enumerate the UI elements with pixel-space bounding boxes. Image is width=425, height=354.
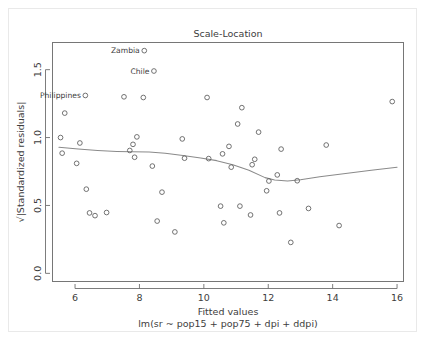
data-point <box>337 223 342 228</box>
point-label: Philippines <box>40 91 81 100</box>
data-point <box>238 204 243 209</box>
data-point <box>264 188 269 193</box>
plot-panel-box <box>53 43 404 282</box>
data-point <box>135 135 140 140</box>
data-point <box>180 137 185 142</box>
plot-canvas: 6810121416 0.00.51.01.5 ZambiaChilePhili… <box>0 0 425 354</box>
chart-title: Scale-Location <box>193 28 262 39</box>
point-annotations: ZambiaChilePhilippines <box>40 46 150 100</box>
scatter-points <box>58 48 394 244</box>
data-point <box>142 48 147 53</box>
data-point <box>141 95 146 100</box>
data-point <box>62 111 67 116</box>
x-axis-subtitle: lm(sr ~ pop15 + pop75 + dpi + ddpi) <box>138 318 318 329</box>
y-tick-label: 1.5 <box>33 62 44 77</box>
data-point <box>295 178 300 183</box>
data-point <box>150 164 155 169</box>
data-point <box>227 144 232 149</box>
loess-smoother-line <box>59 147 397 181</box>
data-point <box>93 213 98 218</box>
scale-location-figure: 6810121416 0.00.51.01.5 ZambiaChilePhili… <box>0 0 425 354</box>
data-point <box>250 162 255 167</box>
data-point <box>58 135 63 140</box>
data-point <box>152 69 157 74</box>
data-point <box>78 141 83 146</box>
data-point <box>235 122 240 127</box>
data-point <box>390 99 395 104</box>
data-point <box>131 142 136 147</box>
data-point <box>267 179 272 184</box>
data-point <box>205 95 210 100</box>
data-point <box>252 157 257 162</box>
x-axis-title: Fitted values <box>198 306 259 317</box>
data-point <box>240 105 245 110</box>
data-point <box>279 147 284 152</box>
data-point <box>74 161 79 166</box>
data-point <box>229 165 234 170</box>
data-point <box>122 94 127 99</box>
x-tick-label: 10 <box>198 292 210 303</box>
data-point <box>173 230 178 235</box>
x-tick-label: 8 <box>136 292 142 303</box>
data-point <box>221 220 226 225</box>
data-point <box>256 130 261 135</box>
data-point <box>83 93 88 98</box>
data-point <box>155 219 160 224</box>
data-point <box>60 151 65 156</box>
data-point <box>275 173 280 178</box>
x-axis: 6810121416 <box>72 284 403 303</box>
x-tick-label: 12 <box>262 292 274 303</box>
data-point <box>306 206 311 211</box>
y-tick-label: 0.5 <box>33 198 44 213</box>
data-point <box>182 156 187 161</box>
data-point <box>132 155 137 160</box>
data-point <box>104 210 109 215</box>
data-point <box>324 143 329 148</box>
data-point <box>220 152 225 157</box>
y-tick-label: 0.0 <box>33 266 44 281</box>
y-axis-title: √|Standardized residuals| <box>15 102 26 223</box>
x-tick-label: 16 <box>391 292 403 303</box>
data-point <box>277 211 282 216</box>
x-tick-label: 6 <box>72 292 78 303</box>
data-point <box>288 240 293 245</box>
point-label: Zambia <box>111 46 140 55</box>
y-tick-label: 1.0 <box>33 130 44 145</box>
data-point <box>87 211 92 216</box>
data-point <box>248 213 253 218</box>
data-point <box>160 190 165 195</box>
x-tick-label: 14 <box>327 292 339 303</box>
data-point <box>84 187 89 192</box>
point-label: Chile <box>130 67 149 76</box>
data-point <box>218 204 223 209</box>
